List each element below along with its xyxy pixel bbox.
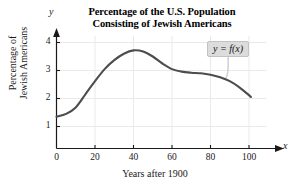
- x-tick-label-20: 20: [81, 152, 109, 162]
- chart-title-line-1: Percentage of the U.S. Population: [62, 6, 262, 18]
- y-tick-label-3: 3: [31, 64, 51, 74]
- y-tick-label-4: 4: [31, 36, 51, 46]
- y-tick-label-1: 1: [31, 120, 51, 130]
- x-tick-label-40: 40: [120, 152, 148, 162]
- x-tick-label-80: 80: [197, 152, 225, 162]
- chart-figure: Percentage of the U.S. Population Consis…: [0, 0, 300, 188]
- y-axis-label: Percentage of Jewish Americans: [7, 3, 29, 123]
- function-callout-label: y = f(x): [207, 41, 249, 57]
- chart-title-line-2: Consisting of Jewish Americans: [62, 18, 262, 30]
- y-tick-label-2: 2: [31, 92, 51, 102]
- x-tick-label-60: 60: [158, 152, 186, 162]
- y-axis-name: y: [49, 6, 53, 17]
- x-tick-label-0: 0: [43, 152, 71, 162]
- y-axis-label-line-2: Jewish Americans: [18, 3, 29, 123]
- data-curve: [57, 50, 251, 116]
- x-axis-label: Years after 1900: [60, 168, 250, 179]
- x-tick-label-100: 100: [235, 152, 263, 162]
- x-axis-name: x: [283, 140, 287, 151]
- y-axis-label-line-1: Percentage of: [7, 3, 18, 123]
- chart-title: Percentage of the U.S. Population Consis…: [62, 6, 262, 29]
